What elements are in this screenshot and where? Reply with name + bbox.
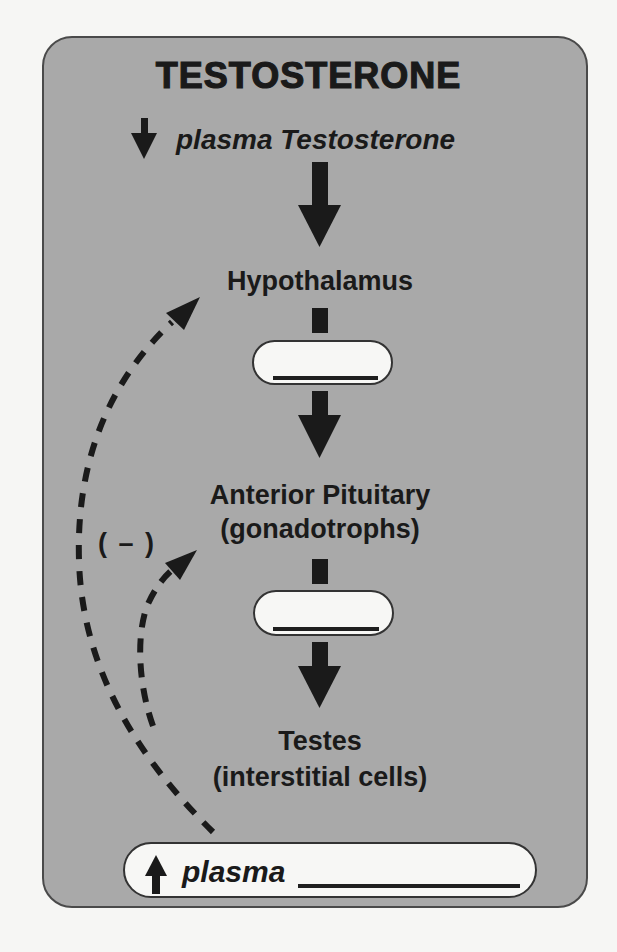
feedback-arrow-hypothalamus [79, 297, 213, 832]
up-arrow-icon [145, 855, 167, 894]
diagram-arrows [0, 0, 617, 952]
flow-arrow-3 [298, 642, 341, 708]
flow-arrow-2 [298, 391, 341, 458]
feedback-arrow-pituitary [140, 550, 197, 726]
connector-bar-1 [312, 308, 328, 333]
connector-bar-2 [312, 559, 328, 584]
flow-arrow-1 [298, 162, 341, 247]
down-arrow-icon [131, 118, 157, 159]
